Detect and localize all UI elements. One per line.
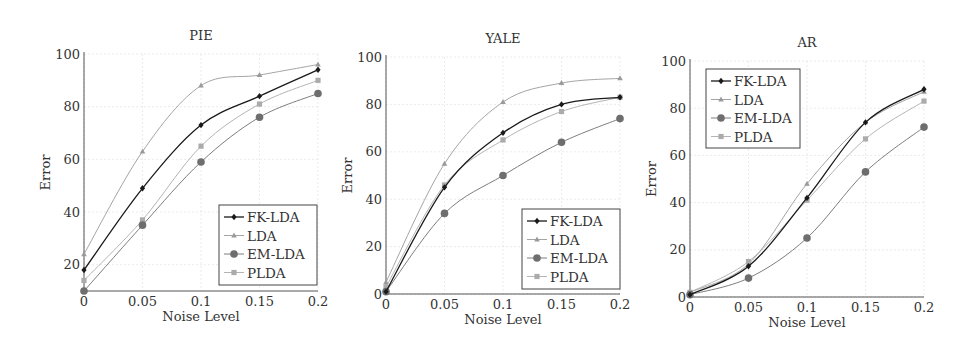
em-lda-marker-icon bbox=[558, 139, 566, 147]
legend: FK-LDALDAEM-LDAPLDA bbox=[219, 205, 317, 285]
legend-label: LDA bbox=[247, 228, 277, 244]
y-tick-label: 0 bbox=[374, 287, 382, 302]
em-lda-marker-icon bbox=[862, 168, 870, 176]
legend-label: FK-LDA bbox=[734, 73, 787, 89]
legend-plda-marker-icon bbox=[231, 270, 236, 275]
x-tick-label: 0.05 bbox=[128, 294, 157, 309]
legend-em-lda-marker-icon bbox=[717, 114, 725, 122]
x-tick-label: 0 bbox=[686, 300, 694, 315]
legend-em-lda-marker-icon bbox=[533, 254, 541, 262]
plda-marker-icon bbox=[315, 78, 320, 83]
y-tick-label: 60 bbox=[669, 148, 686, 163]
x-tick-label: 0.05 bbox=[734, 300, 763, 315]
legend-label: EM-LDA bbox=[734, 110, 792, 126]
y-tick-label: 80 bbox=[63, 99, 80, 114]
legend-plda-marker-icon bbox=[534, 274, 539, 279]
plda-marker-icon bbox=[198, 144, 203, 149]
lda-marker-icon bbox=[198, 83, 204, 88]
y-tick-label: 100 bbox=[357, 50, 382, 65]
x-tick-label: 0 bbox=[80, 294, 88, 309]
legend-label: FK-LDA bbox=[550, 213, 603, 229]
legend-label: PLDA bbox=[247, 265, 286, 281]
legend-label: PLDA bbox=[550, 269, 589, 285]
em-lda-marker-icon bbox=[314, 90, 322, 98]
x-tick-label: 0 bbox=[382, 297, 390, 312]
em-lda-marker-icon bbox=[920, 123, 928, 131]
x-tick-label: 0.1 bbox=[797, 300, 818, 315]
y-tick-label: 20 bbox=[365, 239, 382, 254]
fk-lda-marker-icon bbox=[315, 67, 320, 73]
plda-marker-icon bbox=[863, 136, 868, 141]
plda-marker-icon bbox=[921, 99, 926, 104]
x-tick-label: 0.05 bbox=[430, 297, 459, 312]
y-axis-label: Error bbox=[340, 157, 355, 194]
legend-label: EM-LDA bbox=[247, 246, 305, 262]
y-tick-label: 0 bbox=[678, 290, 686, 305]
legend-label: PLDA bbox=[734, 129, 773, 145]
x-tick-label: 0.1 bbox=[493, 297, 514, 312]
y-tick-label: 100 bbox=[55, 47, 80, 62]
chart-yale: YALE02040608010000.050.10.150.2Noise Lev… bbox=[340, 31, 630, 327]
em-lda-marker-icon bbox=[803, 234, 811, 242]
x-axis-label: Noise Level bbox=[162, 309, 239, 324]
em-lda-marker-icon bbox=[745, 274, 753, 282]
y-tick-label: 80 bbox=[669, 101, 686, 116]
fk-lda-marker-icon bbox=[257, 93, 262, 99]
chart-title: PIE bbox=[189, 28, 212, 43]
y-tick-label: 100 bbox=[661, 54, 686, 69]
em-lda-marker-icon bbox=[256, 113, 264, 121]
line-charts-svg: PIE2040608010000.050.10.150.2Noise Level… bbox=[0, 0, 977, 354]
x-tick-label: 0.1 bbox=[191, 294, 212, 309]
legend-em-lda-marker-icon bbox=[230, 250, 238, 258]
legend-label: LDA bbox=[550, 232, 580, 248]
chart-title: YALE bbox=[484, 31, 520, 46]
x-axis-label: Noise Level bbox=[768, 315, 845, 330]
y-tick-label: 40 bbox=[63, 205, 80, 220]
x-tick-label: 0.15 bbox=[851, 300, 880, 315]
charts-figure: PIE2040608010000.050.10.150.2Noise Level… bbox=[0, 0, 977, 354]
x-tick-label: 0.15 bbox=[547, 297, 576, 312]
legend-label: EM-LDA bbox=[550, 250, 608, 266]
plda-marker-icon bbox=[559, 109, 564, 114]
y-tick-label: 60 bbox=[63, 152, 80, 167]
legend-plda-marker-icon bbox=[718, 134, 723, 139]
chart-ar: AR02040608010000.050.10.150.2Noise Level… bbox=[644, 35, 934, 330]
y-axis-label: Error bbox=[38, 154, 53, 191]
lda-marker-icon bbox=[617, 75, 623, 80]
lda-marker-icon bbox=[500, 99, 506, 104]
legend-label: FK-LDA bbox=[247, 209, 300, 225]
x-axis-label: Noise Level bbox=[464, 312, 541, 327]
fk-lda-marker-icon bbox=[921, 86, 926, 92]
lda-marker-icon bbox=[315, 62, 321, 67]
em-lda-marker-icon bbox=[616, 115, 624, 123]
y-tick-label: 20 bbox=[63, 257, 80, 272]
plda-marker-icon bbox=[81, 278, 86, 283]
x-tick-label: 0.2 bbox=[308, 294, 329, 309]
y-axis-label: Error bbox=[644, 160, 659, 197]
x-tick-label: 0.2 bbox=[914, 300, 935, 315]
fk-lda-marker-icon bbox=[500, 130, 505, 136]
legend: FK-LDALDAEM-LDAPLDA bbox=[706, 69, 800, 148]
plda-marker-icon bbox=[500, 137, 505, 142]
em-lda-marker-icon bbox=[499, 172, 507, 180]
y-tick-label: 40 bbox=[365, 192, 382, 207]
y-tick-label: 20 bbox=[669, 242, 686, 257]
chart-title: AR bbox=[796, 35, 817, 50]
em-lda-marker-icon bbox=[441, 210, 449, 218]
y-tick-label: 40 bbox=[669, 195, 686, 210]
chart-pie: PIE2040608010000.050.10.150.2Noise Level… bbox=[38, 28, 328, 324]
em-lda-marker-icon bbox=[80, 287, 88, 295]
x-tick-label: 0.15 bbox=[245, 294, 274, 309]
legend-label: LDA bbox=[734, 92, 764, 108]
x-tick-label: 0.2 bbox=[610, 297, 631, 312]
legend: FK-LDALDAEM-LDAPLDA bbox=[522, 209, 620, 289]
plda-marker-icon bbox=[257, 101, 262, 106]
y-tick-label: 80 bbox=[365, 97, 382, 112]
em-lda-marker-icon bbox=[197, 158, 205, 166]
y-tick-label: 60 bbox=[365, 144, 382, 159]
fk-lda-marker-icon bbox=[559, 101, 564, 107]
lda-marker-icon bbox=[81, 251, 87, 256]
em-lda-marker-icon bbox=[139, 221, 147, 229]
